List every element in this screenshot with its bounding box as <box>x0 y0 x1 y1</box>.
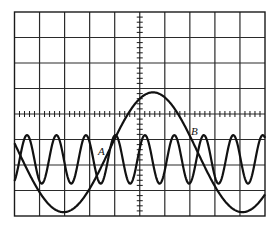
label-a: A <box>97 145 105 157</box>
label-b: B <box>191 125 198 137</box>
oscilloscope-screen: A B <box>0 0 280 231</box>
